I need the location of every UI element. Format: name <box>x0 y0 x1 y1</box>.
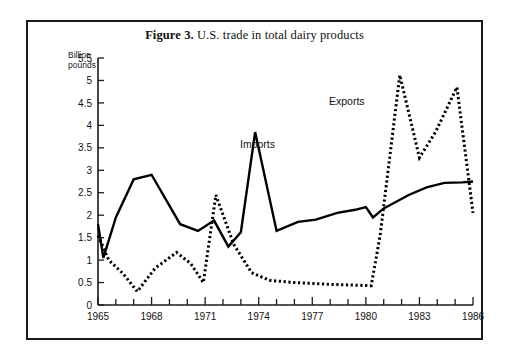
exports-series-line <box>98 75 473 291</box>
y-tick-label: 0 <box>86 300 92 311</box>
y-tick-label: 1 <box>86 255 92 266</box>
x-axis-ticks: 19651968197119741977198019831986 <box>87 297 485 322</box>
y-axis-ticks: 00.511.522.533.544.555.5 <box>78 53 104 311</box>
figure-frame: Figure 3. U.S. trade in total dairy prod… <box>26 20 483 340</box>
imports-series-line <box>98 132 473 258</box>
y-tick-label: 2 <box>86 210 92 221</box>
y-tick-label: 4.5 <box>78 98 92 109</box>
y-tick-label: 5 <box>86 75 92 86</box>
x-tick-label: 1980 <box>355 311 378 322</box>
x-tick-label: 1974 <box>248 311 271 322</box>
exports-label: Exports <box>329 95 365 107</box>
x-tick-label: 1965 <box>87 311 110 322</box>
x-tick-label: 1971 <box>194 311 217 322</box>
y-tick-label: 3 <box>86 165 92 176</box>
y-tick-label: 3.5 <box>78 142 92 153</box>
x-tick-label: 1977 <box>301 311 324 322</box>
y-tick-label: 5.5 <box>78 53 92 64</box>
imports-label: Imports <box>240 138 275 150</box>
y-tick-label: 1.5 <box>78 232 92 243</box>
x-tick-label: 1986 <box>462 311 485 322</box>
y-tick-label: 4 <box>86 120 92 131</box>
x-tick-label: 1983 <box>408 311 431 322</box>
y-tick-label: 0.5 <box>78 277 92 288</box>
trade-line-chart: Billion pounds 00.511.522.533.544.555.5 … <box>28 22 485 342</box>
y-tick-label: 2.5 <box>78 187 92 198</box>
x-tick-label: 1968 <box>140 311 163 322</box>
